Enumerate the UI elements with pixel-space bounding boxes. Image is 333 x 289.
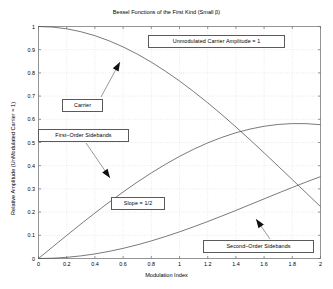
y-tick-label: 0.2 [19,209,35,215]
x-tick-label: 1.6 [254,261,274,267]
chart-figure: Bessel Functions of the First Kind (Smal… [0,0,333,289]
annotation-second-order-sidebands: Second–Order Sidebands [203,240,314,253]
annotation-first-order-sidebands: First–Order Sidebands [38,129,129,142]
y-tick-label: 0.6 [19,116,35,122]
y-tick-label: 0.4 [19,163,35,169]
x-axis-title: Modulation Index [0,272,333,278]
y-tick-label: 0.8 [19,70,35,76]
x-tick-label: 1.8 [282,261,302,267]
x-tick-label: 0 [29,261,49,267]
annotation-slope: Slope = 1/2 [111,197,165,210]
y-tick-label: 0.9 [19,47,35,53]
y-tick-label: 0 [19,256,35,262]
x-tick-label: 1 [170,261,190,267]
x-tick-label: 1.4 [226,261,246,267]
y-tick-label: 1 [19,24,35,30]
y-axis-title: Relative Amplitude (UnModulated Carrier … [10,102,16,215]
x-tick-label: 0.8 [141,261,161,267]
x-tick-label: 2 [311,261,331,267]
y-tick-label: 0.7 [19,93,35,99]
x-tick-label: 1.2 [198,261,218,267]
annotation-arrows [86,62,270,239]
x-tick-label: 0.4 [85,261,105,267]
y-tick-label: 0.1 [19,232,35,238]
annotation-carrier: Carrier [62,99,103,112]
y-tick-label: 0.5 [19,140,35,146]
x-tick-label: 0.2 [57,261,77,267]
y-tick-label: 0.3 [19,186,35,192]
annotation-unmodulated-carrier-amplitude: Unmodulated Carrier Amplitude = 1 [148,35,285,48]
x-tick-label: 0.6 [113,261,133,267]
